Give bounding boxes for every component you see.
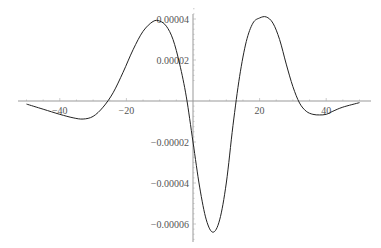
y-tick-label: 0.00002 — [157, 55, 190, 66]
x-tick-label: −20 — [119, 105, 135, 116]
y-tick-label: −0.00006 — [151, 219, 189, 230]
y-tick-label: −0.00004 — [151, 178, 189, 189]
axes — [18, 14, 371, 242]
chart-plot: −40−2020400.000040.00002−0.00002−0.00004… — [0, 0, 381, 248]
y-tick-label: −0.00002 — [151, 137, 189, 148]
x-tick-label: 20 — [255, 105, 265, 116]
tick-labels: −40−2020400.000040.00002−0.00002−0.00004… — [52, 14, 331, 230]
y-tick-label: 0.00004 — [157, 14, 190, 25]
